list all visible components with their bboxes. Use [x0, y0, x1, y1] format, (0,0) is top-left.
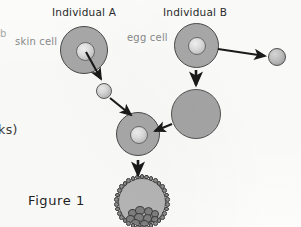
- arrow-egg-to-removed-nucleus: [218, 49, 265, 56]
- figure-canvas: Individual A Individual B skin cell egg …: [0, 0, 301, 227]
- arrow-nucleus-to-fused: [110, 98, 131, 115]
- arrow-layer: [0, 0, 301, 227]
- arrow-skin-nucleus-out: [86, 52, 101, 79]
- arrow-enucleated-to-fused: [155, 124, 172, 131]
